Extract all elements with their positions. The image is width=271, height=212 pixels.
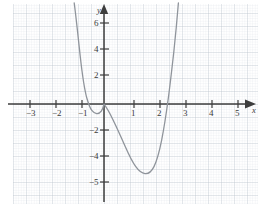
x-axis-name-label: x: [252, 106, 256, 115]
x-tick-label-1: 1: [131, 109, 135, 118]
x-tick-label-neg3: −3: [26, 109, 35, 118]
x-tick-label-neg2: −2: [52, 109, 61, 118]
y-tick-label-6: 6: [94, 19, 98, 28]
x-tick-label-3: 3: [183, 109, 187, 118]
y-tick-label-neg5: −5: [89, 178, 98, 187]
y-tick-label-neg2: −2: [89, 126, 98, 135]
coordinate-plane-figure: [0, 0, 271, 212]
graph-canvas: −3 −2 −1 1 2 3 4 5 6 4 2 −2 −4 −5 x y: [0, 0, 271, 212]
y-tick-label-2: 2: [94, 71, 98, 80]
y-tick-label-4: 4: [94, 45, 98, 54]
y-axis-name-label: y: [97, 6, 101, 15]
x-tick-label-5: 5: [235, 109, 239, 118]
x-tick-label-4: 4: [209, 109, 213, 118]
y-tick-label-neg4: −4: [89, 152, 98, 161]
x-tick-label-2: 2: [157, 109, 161, 118]
x-tick-label-neg1: −1: [78, 109, 87, 118]
